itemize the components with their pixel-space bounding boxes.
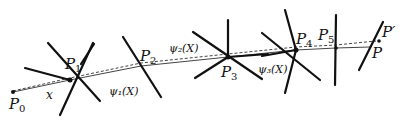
label-p4: P4 [295,30,312,49]
label-p3: P3 [220,63,237,82]
point-p1 [68,78,73,83]
label-p1: P1 [64,55,81,74]
label-p5: P5 [317,26,334,45]
point-p0 [11,90,15,94]
label-psi2: ψ₂(X) [169,42,198,55]
p4-line-fan [262,10,320,93]
label-psi1: ψ₁(X) [109,85,138,98]
label-pprime: P′ [381,23,396,41]
path-diagram: P0 P1 P2 P3 P4 P5 P P′ x ψ₁(X) ψ₂(X) ψ₃(… [0,0,402,121]
label-p: P [371,44,383,62]
point-p3 [226,55,231,60]
label-p0: P0 [8,95,25,114]
point-pprime [377,39,381,43]
label-x: x [46,88,53,102]
point-p4 [294,48,299,53]
label-psi3: ψ₃(X) [258,63,287,76]
point-p5 [334,46,338,50]
label-p2: P2 [139,47,156,66]
p5-line [335,15,336,85]
